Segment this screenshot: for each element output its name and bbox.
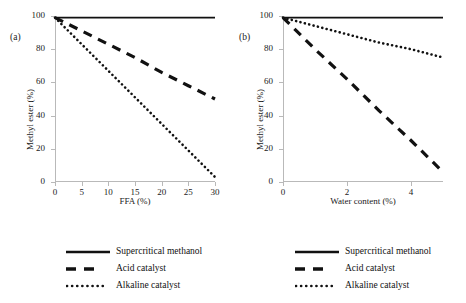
y-tick-label: 100 [260, 10, 274, 21]
x-tick [347, 182, 348, 186]
legend-label: Acid catalyst [116, 263, 166, 274]
y-tick-label: 40 [264, 110, 273, 121]
x-tick-label: 4 [409, 187, 414, 198]
x-tick-label: 10 [104, 187, 113, 198]
y-tick-label: 60 [264, 76, 273, 87]
x-tick [283, 182, 284, 186]
legend-key-dotted [295, 281, 339, 291]
legend-item-alkaline-catalyst: Alkaline catalyst [295, 277, 409, 294]
legend-key-dotted [66, 281, 110, 291]
legend-item-acid-catalyst: Acid catalyst [295, 260, 395, 277]
y-tick-label: 80 [36, 43, 45, 54]
series-layer-b [283, 16, 443, 182]
panel-label-b: (b) [239, 33, 250, 43]
legend-a: Supercritical methanol Acid catalyst Alk… [0, 243, 233, 303]
legend-item-supercritical-methanol: Supercritical methanol [66, 243, 202, 260]
x-axis-label-b: Water content (%) [283, 196, 443, 206]
legend-item-alkaline-catalyst: Alkaline catalyst [66, 277, 180, 294]
x-tick [188, 182, 189, 186]
y-tick-label: 0 [41, 176, 46, 187]
y-tick-label: 20 [36, 143, 45, 154]
plot-area-a: 020406080100 051015202530 [55, 16, 215, 182]
x-tick-label: 0 [53, 187, 58, 198]
x-tick-label: 15 [131, 187, 140, 198]
x-tick [82, 182, 83, 186]
legend-item-supercritical-methanol: Supercritical methanol [295, 243, 431, 260]
x-tick-label: 5 [79, 187, 84, 198]
series-line-acid-catalyst [283, 18, 443, 172]
plot-area-b: 020406080100 024 [283, 16, 443, 182]
panel-label-a: (a) [10, 33, 21, 43]
x-tick-label: 25 [184, 187, 193, 198]
y-tick-label: 0 [269, 176, 274, 187]
series-layer-a [55, 16, 215, 182]
x-tick [135, 182, 136, 186]
y-tick-label: 60 [36, 76, 45, 87]
y-axis-label-a: Methyl ester (%) [25, 89, 35, 150]
x-tick [55, 182, 56, 186]
legend-label: Acid catalyst [345, 263, 395, 274]
series-line-acid-catalyst [55, 18, 215, 99]
x-tick [411, 182, 412, 186]
x-tick-label: 30 [211, 187, 220, 198]
series-line-alkaline-catalyst [283, 18, 443, 58]
legend-label: Alkaline catalyst [345, 280, 409, 291]
figure-container: (a) Methyl ester (%) FFA (%) 02040608010… [0, 0, 466, 303]
legend-label: Supercritical methanol [345, 246, 431, 257]
x-tick [215, 182, 216, 186]
y-tick-label: 100 [32, 10, 46, 21]
chart-panel-a: (a) Methyl ester (%) FFA (%) 02040608010… [0, 0, 233, 225]
chart-panel-b: (b) Methyl ester (%) Water content (%) 0… [233, 0, 466, 225]
x-tick [162, 182, 163, 186]
legend-label: Alkaline catalyst [116, 280, 180, 291]
y-tick-label: 40 [36, 110, 45, 121]
x-tick-label: 20 [157, 187, 166, 198]
series-line-alkaline-catalyst [55, 18, 215, 177]
x-tick [108, 182, 109, 186]
legend-key-dashed [295, 264, 339, 274]
legend-b: Supercritical methanol Acid catalyst Alk… [233, 243, 466, 303]
legend-key-dashed [66, 264, 110, 274]
legend-key-solid [66, 247, 110, 257]
legend-label: Supercritical methanol [116, 246, 202, 257]
y-tick-label: 20 [264, 143, 273, 154]
x-tick-label: 2 [345, 187, 350, 198]
y-tick-label: 80 [264, 43, 273, 54]
x-tick-label: 0 [281, 187, 286, 198]
legend-item-acid-catalyst: Acid catalyst [66, 260, 166, 277]
legend-key-solid [295, 247, 339, 257]
